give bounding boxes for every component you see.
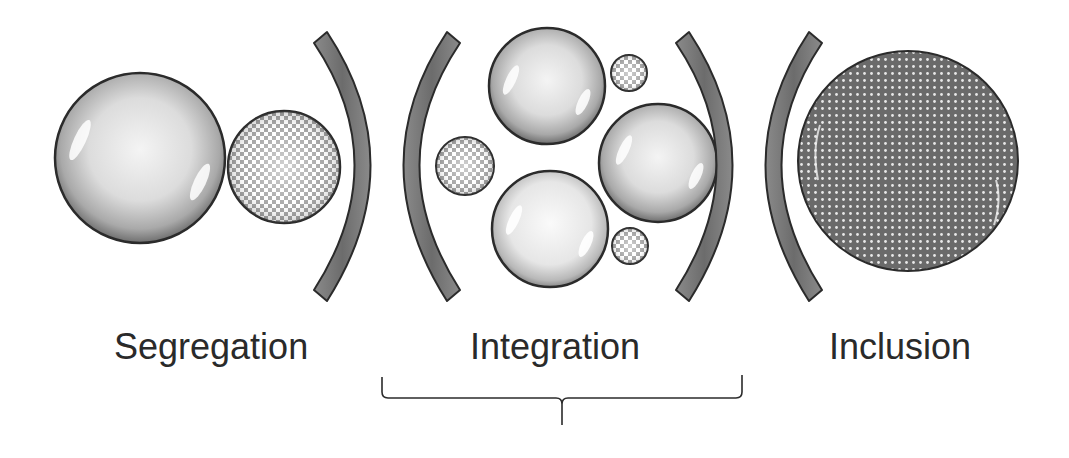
integration-group — [436, 28, 717, 287]
light-sphere-bottom — [492, 171, 608, 287]
checkered-sphere-small-top — [611, 55, 647, 91]
label-integration: Integration — [470, 326, 640, 368]
checkered-sphere — [228, 111, 340, 223]
checkered-sphere-small-bottom — [612, 228, 648, 264]
diagram-canvas — [0, 0, 1069, 458]
brace-integration — [382, 375, 742, 425]
inclusion-group — [798, 51, 1018, 271]
segregation-group — [55, 73, 340, 243]
plain-sphere-top — [489, 28, 605, 144]
label-segregation: Segregation — [114, 326, 308, 368]
checkered-sphere-left — [436, 137, 494, 195]
dotted-sphere-large — [798, 51, 1018, 271]
plain-sphere-large — [55, 73, 225, 243]
label-inclusion: Inclusion — [829, 326, 971, 368]
plain-sphere-right — [599, 104, 717, 222]
